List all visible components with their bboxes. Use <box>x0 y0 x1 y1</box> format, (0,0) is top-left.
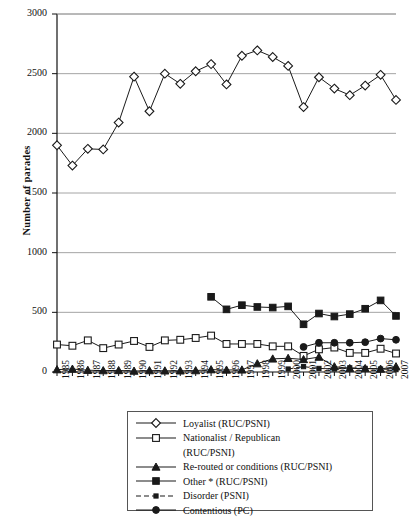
marker-open-square <box>192 335 199 342</box>
marker-open-square <box>254 341 261 348</box>
marker-filled-square <box>254 304 261 311</box>
series-line <box>57 50 396 165</box>
marker-filled-square <box>346 311 353 318</box>
legend-key-filled-triangle <box>133 461 179 473</box>
marker-open-square <box>346 350 353 357</box>
marker-filled-square <box>377 297 384 304</box>
marker-open-diamond <box>345 91 354 100</box>
marker-filled-small <box>154 494 158 498</box>
marker-open-square <box>377 345 384 352</box>
x-axis-tick-label: 1996 <box>231 360 241 379</box>
marker-filled-square <box>285 303 292 310</box>
marker-open-square <box>115 341 122 348</box>
marker-open-diamond <box>392 96 401 105</box>
marker-open-square <box>285 343 292 350</box>
marker-open-diamond <box>114 118 123 127</box>
x-axis-tick-label: 1989 <box>123 360 133 379</box>
marker-filled-circle <box>362 339 369 346</box>
y-axis-tick-label: 2000 <box>5 126 47 137</box>
marker-filled-circle <box>331 339 338 346</box>
marker-open-square <box>161 337 168 344</box>
x-axis-tick-label: 1987 <box>92 360 102 379</box>
y-axis-tick-label: 0 <box>5 365 47 376</box>
marker-filled-circle <box>300 344 307 351</box>
marker-open-square <box>153 434 160 441</box>
marker-open-diamond <box>284 62 293 71</box>
marker-open-diamond <box>268 53 277 62</box>
marker-filled-circle <box>377 335 384 342</box>
marker-filled-square <box>223 306 230 313</box>
x-axis-tick-label: 1988 <box>107 360 117 379</box>
marker-open-diamond <box>315 73 324 82</box>
marker-filled-circle <box>393 336 400 343</box>
marker-open-square <box>100 345 107 352</box>
marker-open-diamond <box>299 103 308 112</box>
marker-filled-square <box>300 321 307 328</box>
marker-open-square <box>316 346 323 353</box>
legend-item-label: Nationalist / Republican <box>179 432 280 443</box>
legend-item[interactable]: Contentious (PC) <box>133 503 367 518</box>
marker-filled-circle <box>346 339 353 346</box>
marker-open-diamond <box>207 60 216 69</box>
x-axis-tick-label: 1995 <box>215 360 225 379</box>
x-axis-tick-label: 1990 <box>138 360 148 379</box>
legend-item-label: Contentious (PC) <box>179 505 253 516</box>
legend-item-label-continued: (RUC/PSNI) <box>133 445 367 460</box>
x-axis-tick-label: 1986 <box>76 360 86 379</box>
marker-open-square <box>239 341 246 348</box>
marker-open-square <box>54 341 61 348</box>
marker-open-diamond <box>145 107 154 116</box>
x-axis-tick-label: 2000 <box>292 360 302 379</box>
x-axis-tick-label: 2007 <box>400 360 410 379</box>
x-axis-tick-label: 2001 <box>308 360 318 379</box>
legend-item-label: Re-routed or conditions (RUC/PSNI) <box>179 461 332 472</box>
marker-open-square <box>362 350 369 357</box>
marker-open-diamond <box>238 51 247 60</box>
x-axis-tick-label: 1993 <box>184 360 194 379</box>
marker-open-square <box>146 344 153 351</box>
marker-open-square <box>393 350 400 357</box>
marker-open-square <box>223 341 230 348</box>
marker-filled-square <box>316 310 323 317</box>
chart-legend: Loyalist (RUC/PSNI)Nationalist / Republi… <box>127 411 373 511</box>
legend-item[interactable]: Re-routed or conditions (RUC/PSNI) <box>133 460 367 475</box>
marker-open-square <box>177 336 184 343</box>
x-axis-tick-label: 1991 <box>153 360 163 379</box>
marker-open-diamond <box>53 141 62 150</box>
marker-open-diamond <box>160 69 169 78</box>
marker-filled-square <box>239 302 246 309</box>
x-axis-tick-label: 2003 <box>338 360 348 379</box>
legend-item[interactable]: Disorder (PSNI) <box>133 489 367 504</box>
legend-item-label: Loyalist (RUC/PSNI) <box>179 418 270 429</box>
marker-open-diamond <box>376 70 385 79</box>
legend-key-filled-square <box>133 475 179 487</box>
y-axis-tick-label: 2500 <box>5 67 47 78</box>
marker-filled-square <box>153 478 160 485</box>
marker-filled-circle <box>153 507 160 514</box>
marker-open-diamond <box>99 145 108 154</box>
marker-filled-small <box>301 365 305 369</box>
marker-open-square <box>84 337 91 344</box>
marker-open-diamond <box>222 80 231 89</box>
marker-filled-square <box>393 313 400 320</box>
legend-key-filled-circle <box>133 504 179 516</box>
marker-open-square <box>208 332 215 339</box>
y-axis-tick-label: 1000 <box>5 246 47 257</box>
x-axis-tick-label: 1998 <box>261 360 271 379</box>
legend-item[interactable]: Nationalist / Republican <box>133 431 367 446</box>
x-axis-tick-label: 1997 <box>246 360 256 379</box>
legend-key-open-diamond <box>133 417 179 429</box>
marker-filled-square <box>331 313 338 320</box>
y-axis-tick-label: 1500 <box>5 186 47 197</box>
x-axis-tick-label: 1992 <box>169 360 179 379</box>
y-axis-tick-label: 500 <box>5 305 47 316</box>
legend-item[interactable]: Other * (RUC/PSNI) <box>133 474 367 489</box>
marker-filled-circle <box>316 339 323 346</box>
marker-open-square <box>269 343 276 350</box>
marker-filled-square <box>362 305 369 312</box>
marker-filled-square <box>208 294 215 301</box>
x-axis-tick-label: 2004 <box>354 360 364 379</box>
x-axis-tick-label: 2005 <box>369 360 379 379</box>
x-axis-tick-label: 1994 <box>200 360 210 379</box>
legend-item[interactable]: Loyalist (RUC/PSNI) <box>133 416 367 431</box>
